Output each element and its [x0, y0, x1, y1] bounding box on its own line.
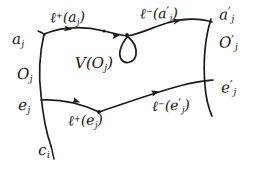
- label-ell-plus-e-j: ℓ+(ej): [68, 112, 103, 130]
- left-boundary-curve: [40, 34, 51, 146]
- bottom-arc-left: [41, 100, 99, 112]
- label-O-prime-j: O′j: [219, 34, 238, 52]
- left-boundary-tail: [51, 146, 54, 159]
- loop-stroke: [120, 37, 136, 62]
- label-O-j: Oj: [17, 67, 33, 84]
- top-loop-vertex-dot: [125, 33, 129, 37]
- label-e-j: ej: [18, 98, 31, 115]
- label-region-V-O-j: V(Oj): [75, 56, 113, 73]
- label-a-j: aj: [12, 32, 25, 49]
- label-e-prime-j: e′j: [221, 79, 237, 97]
- diagram-canvas: aj Oj ej ci a′j O′j e′j V(Oj) ℓ+(aj) ℓ−(…: [0, 0, 255, 172]
- label-ell-plus-a-j: ℓ+(aj): [50, 9, 85, 27]
- label-ell-minus-a-prime-j: ℓ−(a′j): [140, 6, 178, 23]
- top-mid-vertex-dot: [103, 30, 106, 33]
- label-ell-minus-e-prime-j: ℓ−(e′j): [152, 97, 190, 115]
- label-c-i: ci: [38, 143, 50, 160]
- label-a-prime-j: a′j: [219, 6, 235, 24]
- right-boundary-curve: [204, 19, 212, 116]
